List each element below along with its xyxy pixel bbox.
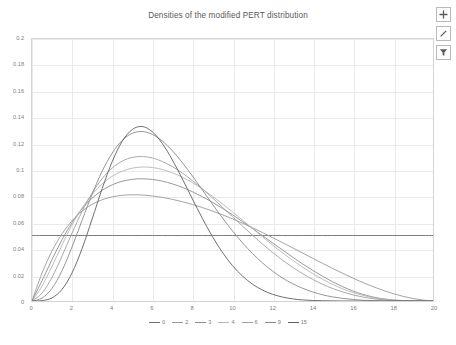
- y-tick-label: 0.12: [0, 141, 24, 147]
- x-tick-label: 6: [150, 305, 153, 311]
- legend-label: 15: [301, 320, 307, 326]
- legend-label: 3: [208, 320, 211, 326]
- y-tick-label: 0.2: [0, 35, 24, 41]
- plot-area: [31, 38, 434, 302]
- x-tick-label: 0: [29, 305, 32, 311]
- series-line: [32, 195, 433, 301]
- legend-label: 6: [255, 320, 258, 326]
- chart-container: Densities of the modified PERT distribut…: [0, 0, 456, 345]
- legend-swatch: [288, 322, 299, 323]
- filter-funnel-icon: [439, 48, 448, 57]
- edit-button[interactable]: [436, 26, 451, 41]
- x-tick-label: 18: [390, 305, 396, 311]
- x-tick-label: 12: [270, 305, 276, 311]
- x-tick-label: 10: [229, 305, 235, 311]
- y-axis-ticks: 00.020.040.060.080.10.120.140.160.180.2: [0, 0, 28, 345]
- legend-swatch: [195, 322, 206, 323]
- legend-swatch: [149, 322, 160, 323]
- series-line: [32, 156, 433, 301]
- filter-button[interactable]: [436, 45, 451, 60]
- series-lines: [32, 39, 433, 301]
- chart-toolbar: [436, 7, 451, 60]
- y-tick-label: 0.04: [0, 246, 24, 252]
- add-button[interactable]: [436, 7, 451, 22]
- chart-title: Densities of the modified PERT distribut…: [0, 11, 456, 20]
- legend-swatch: [218, 322, 229, 323]
- x-tick-label: 8: [191, 305, 194, 311]
- x-tick-label: 16: [350, 305, 356, 311]
- x-tick-label: 4: [110, 305, 113, 311]
- x-tick-label: 20: [431, 305, 437, 311]
- legend-swatch: [172, 322, 183, 323]
- x-tick-label: 14: [310, 305, 316, 311]
- y-tick-label: 0.08: [0, 193, 24, 199]
- legend-label: 4: [231, 320, 234, 326]
- legend-item[interactable]: 0: [149, 320, 165, 326]
- legend-item[interactable]: 4: [218, 320, 234, 326]
- legend-item[interactable]: 9: [265, 320, 281, 326]
- y-tick-label: 0.16: [0, 88, 24, 94]
- legend-swatch: [265, 322, 276, 323]
- add-icon: [439, 10, 448, 19]
- legend-label: 0: [162, 320, 165, 326]
- y-tick-label: 0: [0, 299, 24, 305]
- y-tick-label: 0.02: [0, 273, 24, 279]
- edit-pencil-icon: [439, 29, 448, 38]
- legend-item[interactable]: 3: [195, 320, 211, 326]
- series-line: [32, 126, 433, 301]
- x-tick-label: 2: [70, 305, 73, 311]
- legend-item[interactable]: 2: [172, 320, 188, 326]
- y-tick-label: 0.06: [0, 220, 24, 226]
- series-line: [32, 179, 433, 301]
- legend-item[interactable]: 15: [288, 320, 307, 326]
- legend-label: 2: [185, 320, 188, 326]
- y-tick-label: 0.1: [0, 167, 24, 173]
- legend-swatch: [242, 322, 253, 323]
- y-tick-label: 0.14: [0, 114, 24, 120]
- legend-label: 9: [278, 320, 281, 326]
- chart-legend: 02346915: [0, 320, 456, 326]
- series-line: [32, 167, 433, 301]
- legend-item[interactable]: 6: [242, 320, 258, 326]
- y-tick-label: 0.18: [0, 61, 24, 67]
